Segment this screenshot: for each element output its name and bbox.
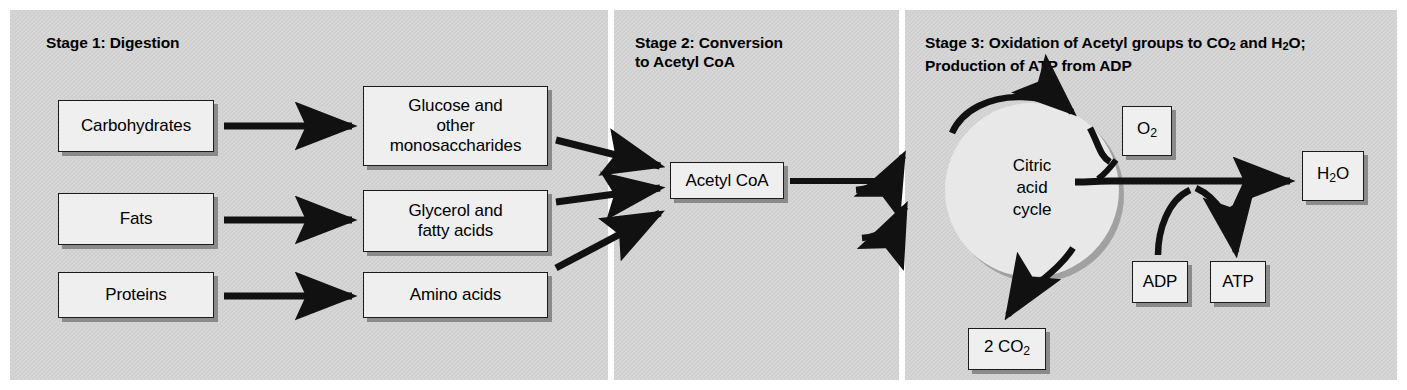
glucose-line-3: monosaccharides xyxy=(390,136,522,155)
node-atp: ATP xyxy=(1210,261,1266,303)
glycerol-line-2: fatty acids xyxy=(418,221,493,240)
node-proteins-label: Proteins xyxy=(105,285,167,305)
node-glucose-monosaccharides-label: Glucose and other monosaccharides xyxy=(390,96,522,156)
node-fats-label: Fats xyxy=(120,209,153,229)
node-atp-label: ATP xyxy=(1222,272,1254,292)
catabolism-stages-diagram: Stage 1: Digestion Stage 2: Conversion t… xyxy=(0,0,1407,390)
h2o-text-b: O xyxy=(1336,164,1349,183)
stage-3-title-line-2: Production of ATP from ADP xyxy=(925,57,1132,74)
glycerol-line-1: Glycerol and xyxy=(408,201,502,220)
node-carbohydrates: Carbohydrates xyxy=(58,100,214,152)
node-2-co2-label: 2 CO2 xyxy=(984,337,1030,361)
citric-acid-cycle-label: Citric acid cycle xyxy=(945,155,1119,221)
node-glycerol-fatty-acids: Glycerol and fatty acids xyxy=(363,190,548,252)
node-amino-acids: Amino acids xyxy=(363,272,548,318)
glucose-line-2: other xyxy=(436,116,474,135)
stage-3-title-part-a: Stage 3: Oxidation of Acetyl groups to C… xyxy=(925,34,1230,51)
cycle-line-1: Citric xyxy=(1013,156,1052,175)
h2o-text-a: H xyxy=(1317,164,1329,183)
stage-2-title-line-1: Stage 2: Conversion xyxy=(635,34,783,51)
node-acetyl-coa-label: Acetyl CoA xyxy=(685,171,768,191)
stage-3-title: Stage 3: Oxidation of Acetyl groups to C… xyxy=(925,33,1395,75)
glucose-line-1: Glucose and xyxy=(408,96,502,115)
node-acetyl-coa: Acetyl CoA xyxy=(670,162,784,199)
node-glycerol-fatty-acids-label: Glycerol and fatty acids xyxy=(408,201,502,241)
node-amino-acids-label: Amino acids xyxy=(410,285,502,305)
node-carbohydrates-label: Carbohydrates xyxy=(81,116,191,136)
node-proteins: Proteins xyxy=(58,272,214,318)
node-glucose-monosaccharides: Glucose and other monosaccharides xyxy=(363,86,548,166)
h2o-subscript: 2 xyxy=(1329,171,1336,185)
co2-subscript: 2 xyxy=(1023,344,1030,358)
stage-1-title: Stage 1: Digestion xyxy=(46,33,179,52)
node-adp: ADP xyxy=(1132,261,1188,303)
cycle-line-3: cycle xyxy=(1013,200,1052,219)
node-h2o-label: H2O xyxy=(1317,164,1349,188)
node-adp-label: ADP xyxy=(1143,272,1178,292)
o2-text: O xyxy=(1137,119,1150,138)
o2-subscript: 2 xyxy=(1150,126,1157,140)
node-fats: Fats xyxy=(58,193,214,245)
stage-3-title-part-b: and H xyxy=(1236,34,1283,51)
node-h2o: H2O xyxy=(1302,151,1364,201)
co2-text: 2 CO xyxy=(984,337,1023,356)
node-o2: O2 xyxy=(1122,106,1172,156)
stage-2-title: Stage 2: Conversion to Acetyl CoA xyxy=(635,33,885,71)
cycle-line-2: acid xyxy=(1016,178,1047,197)
node-2-co2: 2 CO2 xyxy=(968,328,1046,370)
node-o2-label: O2 xyxy=(1137,119,1157,143)
stage-3-title-part-c: O; xyxy=(1288,34,1305,51)
stage-2-title-line-2: to Acetyl CoA xyxy=(635,53,735,70)
